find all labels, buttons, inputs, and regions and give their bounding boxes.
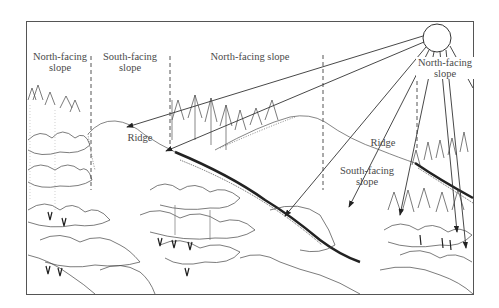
label-line: South-facing xyxy=(97,51,163,62)
label-line: slope xyxy=(416,68,474,79)
label-line: South-facing xyxy=(332,165,402,176)
label-south-facing-slope-right: South-facing slope xyxy=(332,165,402,187)
label-line: North-facing xyxy=(416,57,474,68)
label-south-facing-slope-left: South-facing slope xyxy=(97,51,163,73)
diagram-illustration xyxy=(0,0,499,308)
label-line: slope xyxy=(97,62,163,73)
sun-icon xyxy=(423,24,451,52)
label-line: slope xyxy=(332,176,402,187)
label-line: North-facing xyxy=(30,51,90,62)
label-line: Ridge xyxy=(122,132,158,143)
label-north-facing-slope-right: North-facing slope xyxy=(416,57,474,79)
label-line: slope xyxy=(30,62,90,73)
diagram-frame xyxy=(27,22,474,295)
label-north-facing-slope-left: North-facing slope xyxy=(30,51,90,73)
right-forest xyxy=(380,132,473,294)
label-ridge-left: Ridge xyxy=(122,132,158,143)
label-line: North-facing slope xyxy=(190,51,310,62)
label-north-facing-slope-middle: North-facing slope xyxy=(190,51,310,62)
middle-forest xyxy=(140,95,360,294)
label-line: Ridge xyxy=(365,137,401,148)
slope-diagram: North-facing slope South-facing slope No… xyxy=(0,0,499,308)
label-ridge-right: Ridge xyxy=(365,137,401,148)
